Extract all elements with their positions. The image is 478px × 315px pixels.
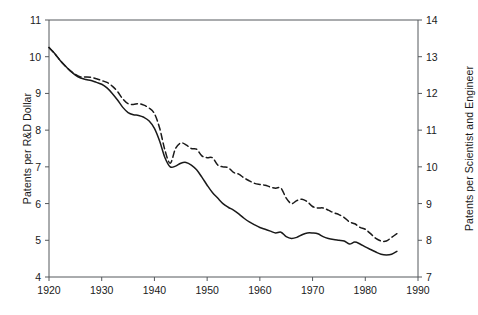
right-axis-title: Patents per Scientist and Engineer <box>460 20 478 277</box>
y-tick-label-left: 5 <box>35 234 41 246</box>
y-tick-label-left: 6 <box>35 198 41 210</box>
x-tick-label: 1990 <box>406 284 430 296</box>
x-tick-label: 1940 <box>143 284 167 296</box>
y-tick-label-right: 13 <box>426 51 438 63</box>
x-tick-label: 1920 <box>37 284 61 296</box>
y-axis-right-ticks: 7891011121314 <box>418 14 438 283</box>
data-series-group <box>49 48 397 255</box>
y-tick-label-left: 4 <box>35 271 41 283</box>
y-tick-label-right: 14 <box>426 14 438 26</box>
x-tick-label: 1970 <box>301 284 325 296</box>
x-axis-ticks: 19201930194019501960197019801990 <box>37 277 430 296</box>
y-tick-label-left: 8 <box>35 124 41 136</box>
axis-frame <box>49 20 418 277</box>
y-tick-label-right: 11 <box>426 124 437 136</box>
y-tick-label-left: 7 <box>35 161 41 173</box>
y-tick-label-right: 10 <box>426 161 438 173</box>
y-tick-label-left: 9 <box>35 87 41 99</box>
y-tick-label-right: 8 <box>426 234 432 246</box>
x-tick-label: 1960 <box>248 284 272 296</box>
x-tick-label: 1930 <box>90 284 114 296</box>
series-line-1 <box>49 48 397 255</box>
x-tick-label: 1980 <box>354 284 378 296</box>
y-tick-label-right: 12 <box>426 87 438 99</box>
series-line-2 <box>49 48 397 242</box>
y-tick-label-right: 9 <box>426 198 432 210</box>
left-axis-title: Patents per R&D Dollar <box>18 20 36 277</box>
x-tick-label: 1950 <box>195 284 219 296</box>
y-tick-label-right: 7 <box>426 271 432 283</box>
